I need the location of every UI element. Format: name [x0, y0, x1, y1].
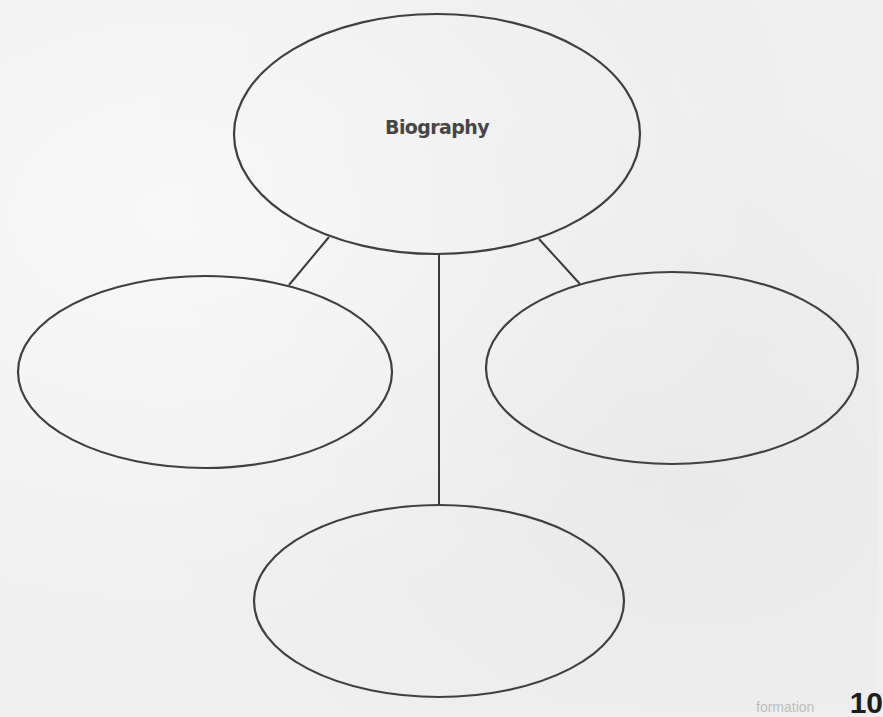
- footer-ghost-text: formation: [756, 699, 814, 715]
- page-number: 10: [850, 688, 883, 717]
- branch-answer-bottom[interactable]: [284, 535, 594, 667]
- connector-right: [539, 239, 580, 284]
- connector-left: [289, 237, 329, 285]
- branch-answer-left[interactable]: [48, 306, 362, 438]
- center-topic-label: Biography: [337, 116, 537, 138]
- branch-answer-right[interactable]: [516, 302, 828, 434]
